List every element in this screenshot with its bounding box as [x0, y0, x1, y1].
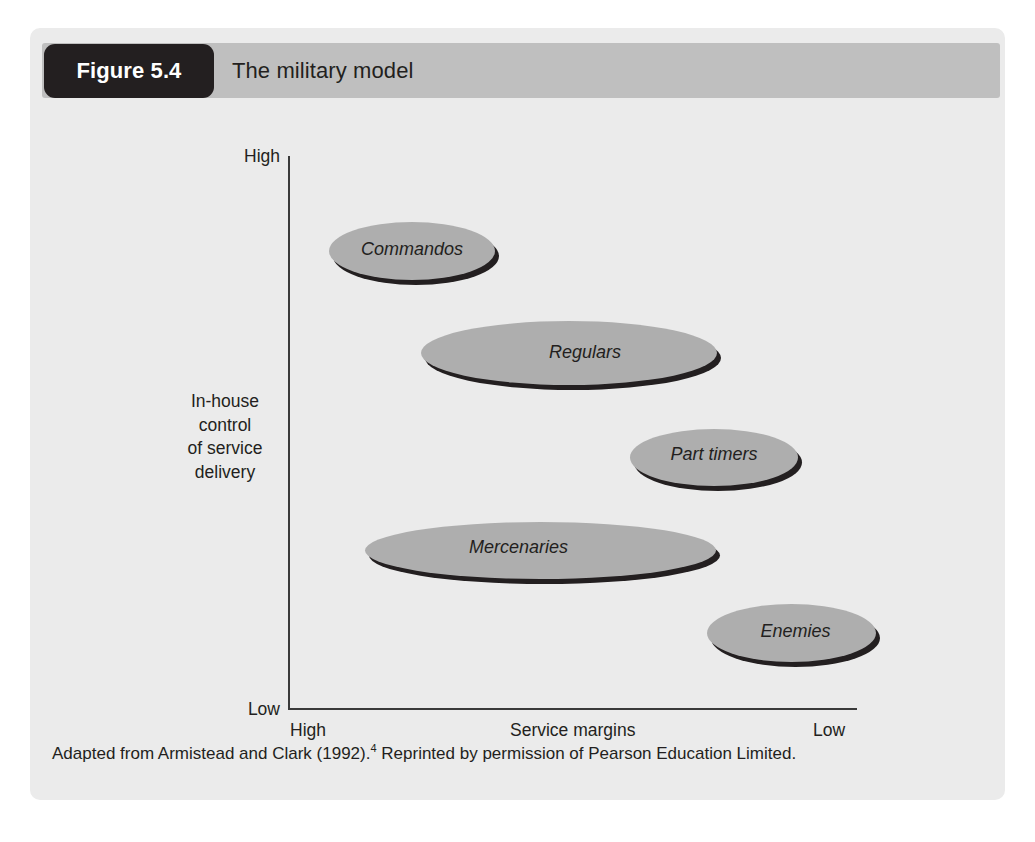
bubble-enemies: Enemies: [707, 604, 876, 662]
figure-number-label: Figure 5.4: [77, 58, 182, 84]
x-axis-high-tick-label: High: [290, 720, 326, 741]
bubble-body: Regulars: [421, 321, 717, 385]
bubble-body: Part timers: [630, 429, 798, 486]
figure-source-suffix: Reprinted by permission of Pearson Educa…: [377, 744, 797, 763]
figure-title: The military model: [232, 44, 414, 98]
bubble-label-regulars: Regulars: [549, 342, 621, 363]
x-axis-line: [288, 708, 857, 710]
y-axis-title-line-4: delivery: [170, 461, 280, 485]
figure-panel: Figure 5.4 The military model High Low H…: [30, 28, 1005, 800]
bubble-body: Commandos: [329, 222, 495, 280]
bubble-label-part-timers: Part timers: [670, 444, 757, 465]
figure-source-prefix: Adapted from Armistead and Clark (1992).: [52, 744, 370, 763]
x-axis-title: Service margins: [510, 720, 635, 741]
y-axis-title-line-1: In-house: [170, 390, 280, 414]
y-axis-title: In-house control of service delivery: [170, 390, 280, 484]
bubble-commandos: Commandos: [329, 222, 495, 280]
figure-source-caption: Adapted from Armistead and Clark (1992).…: [52, 742, 796, 764]
bubble-part-timers: Part timers: [630, 429, 798, 486]
bubble-regulars: Regulars: [421, 321, 717, 385]
y-axis-title-line-3: of service: [170, 437, 280, 461]
bubble-body: Mercenaries: [365, 522, 716, 579]
bubble-body: Enemies: [707, 604, 876, 662]
y-axis-title-line-2: control: [170, 414, 280, 438]
y-axis-line: [288, 156, 290, 710]
bubble-label-commandos: Commandos: [361, 239, 463, 260]
bubble-label-enemies: Enemies: [760, 621, 830, 642]
bubble-label-mercenaries: Mercenaries: [469, 537, 568, 558]
chart-plot-area: High Low High Low Service margins In-hou…: [30, 98, 1005, 728]
x-axis-low-tick-label: Low: [813, 720, 845, 741]
y-axis-low-tick-label: Low: [228, 699, 280, 720]
bubble-mercenaries: Mercenaries: [365, 522, 716, 579]
y-axis-high-tick-label: High: [238, 146, 280, 167]
figure-number-tab: Figure 5.4: [44, 44, 214, 98]
